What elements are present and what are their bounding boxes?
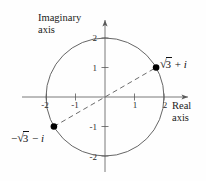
point-label-sqrt3-plus-i: √3 + i xyxy=(160,57,187,72)
imaginary-tick-label-neg1: -1 xyxy=(90,122,98,132)
real-axis-title-line2: axis xyxy=(172,112,191,124)
real-tick-label-pos2: 2 xyxy=(163,100,168,110)
imaginary-tick-label-neg2: -2 xyxy=(90,152,98,162)
real-tick-label-pos1: 1 xyxy=(133,100,138,110)
radical-group-upper: √3 xyxy=(160,57,172,72)
plot-point-upper-right xyxy=(153,64,160,71)
real-tick-label-neg2: -2 xyxy=(41,100,49,110)
point-label-neg-sqrt3-minus-i: −√3 − i xyxy=(11,131,44,146)
imaginary-axis-title: Imaginary axis xyxy=(38,12,81,35)
radical-group-lower: √3 xyxy=(17,131,29,146)
radicand-upper: 3 xyxy=(166,57,173,70)
imaginary-axis-title-line1: Imaginary xyxy=(38,12,81,23)
imaginary-unit-lower: i xyxy=(41,132,44,144)
imaginary-tick-label-pos2: 2 xyxy=(93,33,98,43)
imaginary-tick-label-pos1: 1 xyxy=(93,63,98,73)
real-axis-title-line1: Real xyxy=(172,100,191,111)
plot-point-lower-left xyxy=(51,123,58,130)
argand-plot-canvas: -2 -1 1 2 2 1 -1 -2 xyxy=(0,0,206,181)
argand-diagram-figure: -2 -1 1 2 2 1 -1 -2 Imaginary axis Real … xyxy=(0,0,206,181)
radicand-lower: 3 xyxy=(23,131,30,144)
imaginary-axis-title-line2: axis xyxy=(38,24,81,36)
real-axis-title: Real axis xyxy=(172,100,191,123)
real-tick-label-neg1: -1 xyxy=(71,100,79,110)
imaginary-unit-upper: i xyxy=(184,58,187,70)
